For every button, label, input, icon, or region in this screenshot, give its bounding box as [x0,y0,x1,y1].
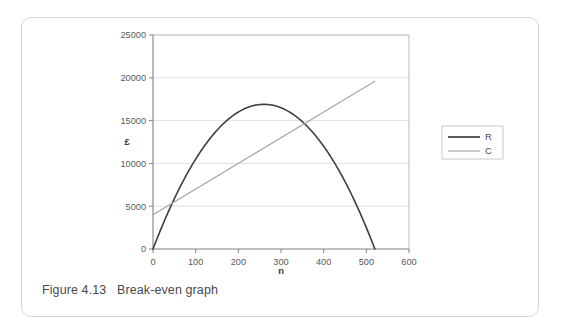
chart-legend[interactable]: RC [442,126,503,159]
legend-label-R: R [485,131,492,142]
legend-label-C: C [485,145,492,156]
x-tick-label-0: 0 [150,257,155,267]
x-tick-label-100: 100 [188,257,203,267]
y-axis-title: £ [124,136,130,147]
x-tick-label-200: 200 [231,257,246,267]
x-tick-label-500: 500 [359,257,374,267]
plot-background [153,35,409,249]
figure-caption: Figure 4.13 Break-even graph [42,283,218,297]
figure-frame: 0500010000150002000025000 01002003004005… [21,17,539,317]
y-tick-label-15000: 15000 [120,116,146,126]
chart-region: 0500010000150002000025000 01002003004005… [22,18,540,280]
x-axis-ticks [153,249,409,253]
y-tick-label-0: 0 [141,244,146,254]
y-axis-ticks [149,35,153,249]
break-even-chart: 0500010000150002000025000 01002003004005… [22,18,540,280]
x-axis-title: n [278,265,284,276]
y-tick-label-5000: 5000 [126,202,146,212]
legend-box [442,126,503,159]
y-tick-label-20000: 20000 [120,73,146,83]
x-tick-label-600: 600 [401,257,416,267]
x-tick-label-400: 400 [316,257,331,267]
y-tick-label-25000: 25000 [120,30,146,40]
y-tick-label-10000: 10000 [120,159,146,169]
